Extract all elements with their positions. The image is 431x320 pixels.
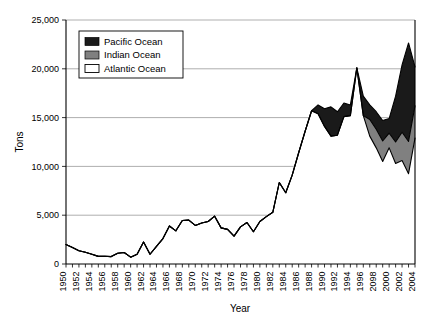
x-tick-label: 1958 [110, 271, 120, 291]
x-tick-label: 2000 [381, 272, 391, 292]
x-tick-label: 1986 [291, 272, 301, 292]
legend-swatch-atlantic-ocean [85, 65, 99, 73]
legend-label-atlantic-ocean: Atlantic Ocean [104, 63, 166, 74]
x-tick-label: 1974 [213, 271, 223, 291]
x-tick-label: 1984 [278, 271, 288, 291]
x-tick-label: 1982 [265, 271, 275, 291]
x-tick-label: 1978 [239, 271, 249, 291]
x-tick-label: 1952 [71, 272, 81, 292]
x-tick-label: 1964 [148, 271, 158, 291]
x-tick-label: 2098 [368, 271, 378, 291]
stacked-area-chart: 05,00010,00015,00020,00025,000 195019521… [0, 0, 431, 320]
x-tick-label: 1962 [136, 272, 146, 292]
x-tick-label: 1966 [161, 272, 171, 292]
y-tick-label: 15,000 [31, 113, 59, 123]
x-tick-label: 1994 [342, 271, 352, 291]
x-tick-label: 1992 [329, 271, 339, 291]
x-tick-label: 1988 [304, 271, 314, 291]
legend-swatch-pacific-ocean [85, 38, 99, 46]
x-tick-label: 1980 [252, 272, 262, 292]
y-axis-title: Tons [14, 131, 25, 152]
x-axis-title: Year [230, 303, 251, 314]
x-tick-label: 1976 [226, 272, 236, 292]
x-tick-label: 1970 [187, 272, 197, 292]
legend-label-indian-ocean: Indian Ocean [104, 49, 161, 60]
x-tick-label: 2004 [407, 272, 417, 292]
x-tick-label: 1956 [97, 272, 107, 292]
chart-legend: Pacific Ocean Indian Ocean Atlantic Ocea… [79, 31, 183, 78]
x-tick-label: 2002 [394, 271, 404, 291]
x-tick-label: 1972 [200, 272, 210, 292]
y-tick-label: 10,000 [31, 162, 59, 172]
y-tick-label: 5,000 [36, 210, 59, 220]
x-tick-label: 1960 [123, 272, 133, 292]
x-tick-label: 1950 [58, 272, 68, 292]
legend-label-pacific-ocean: Pacific Ocean [104, 36, 163, 47]
y-tick-label: 25,000 [31, 15, 59, 25]
x-tick-label: 1968 [174, 271, 184, 291]
x-tick-label: 1996 [355, 272, 365, 292]
y-tick-label: 20,000 [31, 64, 59, 74]
x-tick-label: 1954 [84, 271, 94, 291]
legend-swatch-indian-ocean [85, 51, 99, 59]
chart-container: 05,00010,00015,00020,00025,000 195019521… [0, 0, 431, 320]
y-tick-label: 0 [54, 259, 59, 269]
x-tick-label: 1990 [317, 272, 327, 292]
